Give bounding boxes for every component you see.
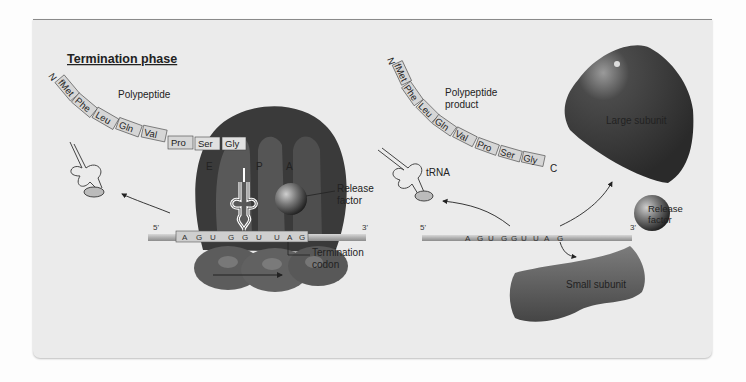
svg-text:U: U [256, 233, 262, 242]
svg-text:G: G [557, 234, 563, 243]
termination-codon-label-2: codon [312, 259, 339, 270]
svg-text:A: A [544, 234, 550, 243]
release-factor-left [275, 183, 307, 215]
release-factor-right-label-1: Release [648, 203, 683, 214]
svg-text:U: U [521, 234, 527, 243]
release-factor-label-1: Release [337, 183, 374, 194]
a-site-label: A [286, 161, 293, 172]
svg-text:G: G [501, 234, 507, 243]
svg-text:G: G [299, 233, 305, 242]
section-title: Termination phase [67, 52, 177, 66]
mrna-right [422, 235, 632, 241]
free-trna-right [378, 148, 433, 201]
svg-text:G: G [196, 233, 202, 242]
large-subunit-label: Large subunit [606, 115, 667, 126]
svg-text:G: G [477, 234, 483, 243]
termination-diagram: Termination phase E P A Release factor 5… [0, 0, 746, 382]
svg-text:U: U [210, 233, 216, 242]
svg-text:Ser: Ser [499, 146, 516, 161]
c-terminus-right: C [550, 163, 557, 174]
svg-text:A: A [287, 233, 293, 242]
free-trna-left [70, 142, 104, 197]
svg-text:A: A [465, 234, 471, 243]
trna-release-arrow-right [443, 201, 510, 226]
mrna-3prime-left: 3' [362, 223, 368, 232]
polypeptide-label: Polypeptide [118, 89, 171, 100]
mrna-5prime-right: 5' [420, 223, 426, 232]
large-subunit-arrow [560, 182, 612, 226]
svg-text:Gly: Gly [522, 152, 538, 166]
codon-strip-left: A G U G G U U A G [176, 231, 308, 242]
svg-text:U: U [488, 234, 494, 243]
svg-text:A: A [182, 233, 188, 242]
svg-text:Ser: Ser [198, 138, 213, 149]
release-factor-label-2: factor [337, 195, 363, 206]
codon-strip-right: A G U G G U U A G [465, 234, 563, 243]
trna-release-arrow [122, 194, 170, 213]
termination-codon-label-1: Termination [312, 247, 364, 258]
svg-text:U: U [274, 233, 280, 242]
mrna-3prime-right: 3' [630, 223, 636, 232]
svg-text:G: G [511, 234, 517, 243]
polypeptide-product-label-1: Polypeptide [445, 87, 498, 98]
svg-text:Pro: Pro [171, 137, 186, 148]
release-factor-right-label-2: factor [648, 214, 672, 225]
polypeptide-right: fMet Phe Leu Gln Val Pro Ser Gly [392, 61, 545, 167]
small-subunit-label: Small subunit [566, 279, 626, 290]
p-site-label: P [256, 161, 263, 172]
svg-text:G: G [228, 233, 234, 242]
svg-text:Gly: Gly [225, 138, 240, 149]
mrna-5prime-left: 5' [153, 223, 159, 232]
svg-text:U: U [533, 234, 539, 243]
e-site-label: E [206, 161, 213, 172]
svg-text:G: G [242, 233, 248, 242]
polypeptide-product-label-2: product [445, 99, 479, 110]
trna-label: tRNA [426, 167, 450, 178]
polypeptide-left: fMet Phe Leu Gln Val Pro Ser Gly [55, 75, 246, 150]
small-subunit-arrow [560, 242, 576, 257]
